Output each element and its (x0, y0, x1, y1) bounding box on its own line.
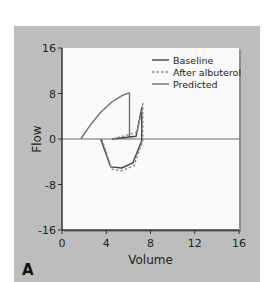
flow-volume-chart: 1680-8-160481216VolumeFlowABaselineAfter… (0, 0, 271, 282)
legend-label: Baseline (173, 55, 213, 66)
y-tick-label: 0 (49, 133, 56, 146)
x-axis-title: Volume (128, 253, 173, 267)
x-tick-label: 16 (232, 237, 246, 250)
x-tick-label: 0 (59, 237, 66, 250)
x-tick-label: 4 (103, 237, 110, 250)
y-tick-label: -16 (38, 224, 56, 237)
y-tick-label: -8 (45, 179, 56, 192)
x-tick-label: 12 (188, 237, 202, 250)
legend-label: After albuterol (173, 67, 241, 78)
x-tick-label: 8 (147, 237, 154, 250)
legend-label: Predicted (173, 79, 218, 90)
y-axis-title: Flow (30, 125, 44, 153)
y-tick-label: 8 (49, 88, 56, 101)
panel-label: A (22, 261, 34, 279)
y-tick-label: 16 (42, 42, 56, 55)
